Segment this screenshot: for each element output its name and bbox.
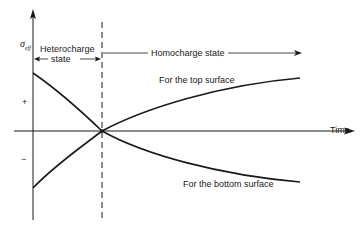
plus-sign: + <box>22 98 27 107</box>
heterocharge-label-line1: Heterocharge <box>40 45 95 54</box>
homocharge-label: Homocharge state <box>151 49 225 58</box>
bottom-surface-label: For the bottom surface <box>183 180 274 189</box>
minus-sign: − <box>21 155 26 164</box>
y-axis-label: σeff <box>20 39 31 51</box>
intersection-point <box>100 129 104 133</box>
heterocharge-label-line2: state <box>51 55 71 64</box>
sigma-subscript: eff <box>25 45 31 51</box>
x-axis-label: Time <box>330 126 350 135</box>
diagram-canvas <box>0 0 361 230</box>
top-surface-label: For the top surface <box>159 76 235 85</box>
